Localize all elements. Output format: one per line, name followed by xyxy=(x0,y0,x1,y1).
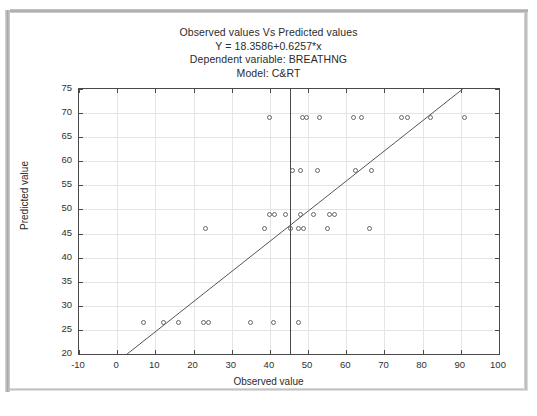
x-axis-title: Observed value xyxy=(0,376,537,387)
scatter-point xyxy=(369,168,374,173)
y-tick-label: 65 xyxy=(46,130,72,141)
x-tick-label: 40 xyxy=(249,359,289,370)
scatter-point xyxy=(288,226,293,231)
x-tick-label: 20 xyxy=(173,359,213,370)
x-tick-label: 70 xyxy=(363,359,403,370)
scatter-point xyxy=(201,320,206,325)
y-tick-label: 60 xyxy=(46,154,72,165)
page-edge-top xyxy=(10,9,528,13)
x-tick-label: 60 xyxy=(325,359,365,370)
y-tick-label: 55 xyxy=(46,178,72,189)
x-axis-tick xyxy=(499,350,500,354)
chart-title: Observed values Vs Predicted values xyxy=(0,26,537,40)
scatter-point xyxy=(315,168,320,173)
scatter-point xyxy=(298,168,303,173)
scatter-point xyxy=(161,320,166,325)
chart-equation: Y = 18.3586+0.6257*x xyxy=(0,40,537,54)
y-axis-title: Predicted value xyxy=(19,126,30,266)
x-tick-label: 30 xyxy=(211,359,251,370)
chart-title-block: Observed values Vs Predicted values Y = … xyxy=(0,26,537,80)
scatter-point xyxy=(262,226,267,231)
y-axis-tick xyxy=(495,354,499,355)
scatter-point xyxy=(304,115,309,120)
page-edge-bottom xyxy=(10,388,528,391)
scatter-point xyxy=(141,320,146,325)
y-tick-label: 30 xyxy=(46,299,72,310)
y-axis-tick xyxy=(79,354,83,355)
chart-dependent-variable: Dependent variable: BREATHNG xyxy=(0,53,537,67)
y-tick-label: 40 xyxy=(46,251,72,262)
scatter-point xyxy=(325,226,330,231)
scatter-point xyxy=(359,115,364,120)
scatter-point xyxy=(428,115,433,120)
scatter-point xyxy=(271,320,276,325)
y-tick-label: 50 xyxy=(46,202,72,213)
x-tick-label: 100 xyxy=(478,359,518,370)
x-tick-label: -10 xyxy=(58,359,98,370)
x-axis-tick xyxy=(499,89,500,93)
scatter-point xyxy=(353,168,358,173)
scatter-point xyxy=(298,212,303,217)
y-tick-label: 20 xyxy=(46,347,72,358)
scatter-point xyxy=(272,212,277,217)
scatter-point xyxy=(267,115,272,120)
x-tick-label: 80 xyxy=(402,359,442,370)
scatter-point xyxy=(301,226,306,231)
scatter-point xyxy=(296,320,301,325)
x-tick-label: 0 xyxy=(96,359,136,370)
scatter-point xyxy=(283,212,288,217)
scatter-point xyxy=(405,115,410,120)
scatter-point xyxy=(332,212,337,217)
y-tick-label: 70 xyxy=(46,106,72,117)
scatter-point xyxy=(206,320,211,325)
scatter-point xyxy=(248,320,253,325)
x-tick-label: 90 xyxy=(440,359,480,370)
x-tick-label: 50 xyxy=(287,359,327,370)
scatter-point xyxy=(311,212,316,217)
scatter-point xyxy=(399,115,404,120)
y-tick-label: 75 xyxy=(46,82,72,93)
scatter-point xyxy=(351,115,356,120)
scatter-point xyxy=(176,320,181,325)
scatter-point xyxy=(327,212,332,217)
y-tick-label: 45 xyxy=(46,227,72,238)
y-tick-label: 25 xyxy=(46,323,72,334)
plot-area xyxy=(78,88,500,355)
scatter-point xyxy=(290,168,295,173)
scatter-point xyxy=(317,115,322,120)
scatter-point xyxy=(462,115,467,120)
chart-model: Model: C&RT xyxy=(0,67,537,81)
scatter-point xyxy=(203,226,208,231)
scatter-points-layer xyxy=(79,89,499,354)
y-tick-label: 35 xyxy=(46,275,72,286)
x-tick-label: 10 xyxy=(134,359,174,370)
scanned-page: Observed values Vs Predicted values Y = … xyxy=(0,0,537,416)
scatter-point xyxy=(367,226,372,231)
